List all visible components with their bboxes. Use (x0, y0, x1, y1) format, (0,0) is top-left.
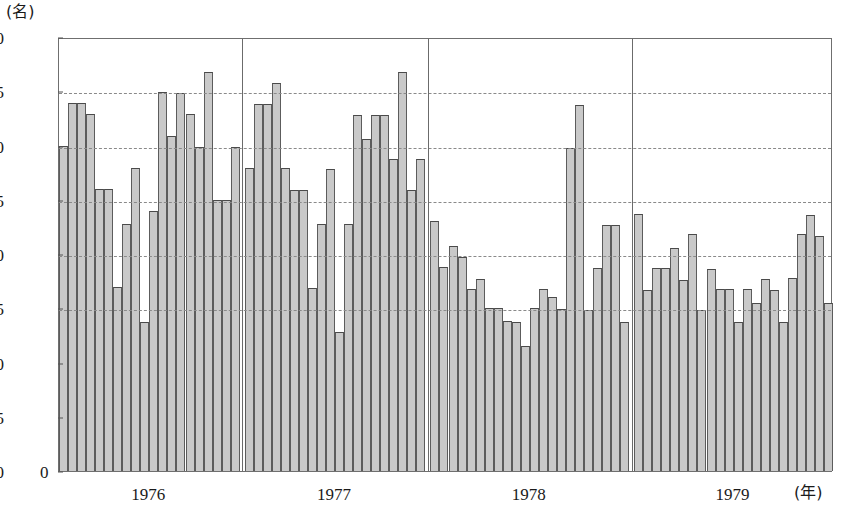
gridline (59, 202, 831, 203)
bar (725, 289, 734, 471)
bar (494, 308, 503, 471)
bar (824, 303, 833, 471)
bar (140, 322, 149, 471)
bar (272, 83, 281, 471)
bar (299, 190, 308, 471)
bar (593, 268, 602, 471)
group-divider (242, 39, 243, 471)
bar (670, 248, 679, 472)
y-tick-label: 20 (0, 247, 4, 264)
gridline (59, 93, 831, 94)
bar (530, 308, 539, 471)
bar (679, 280, 688, 471)
bar (308, 288, 317, 471)
bar (122, 224, 131, 471)
histogram-chart: (名) 0510152025303540 (年) 197619771978197… (0, 0, 844, 526)
bar (213, 200, 222, 471)
origin-label: 0 (40, 464, 49, 481)
bar (195, 147, 204, 471)
bar (548, 297, 557, 471)
bar (326, 169, 335, 471)
bar (131, 168, 140, 471)
bar (113, 287, 122, 471)
bar (430, 221, 439, 471)
bar (407, 190, 416, 471)
x-group-label-1978: 1978 (512, 486, 546, 504)
bar (485, 308, 494, 471)
bar (752, 303, 761, 471)
bar (716, 289, 725, 471)
bar (734, 322, 743, 471)
bar (697, 310, 706, 471)
y-tick-mark (58, 363, 63, 364)
y-tick-label: 40 (0, 30, 4, 47)
bar (371, 115, 380, 471)
bar (353, 115, 362, 471)
y-tick-mark (58, 472, 63, 473)
bar (503, 321, 512, 471)
bar (643, 290, 652, 471)
bar (815, 236, 824, 471)
bar (68, 103, 77, 471)
y-tick-mark (58, 309, 63, 310)
bar (290, 190, 299, 471)
bar (761, 279, 770, 471)
bar (104, 189, 113, 471)
bar (389, 159, 398, 471)
bar (344, 224, 353, 471)
bar (688, 234, 697, 471)
bar (620, 322, 629, 471)
bar (539, 289, 548, 471)
bar (439, 267, 448, 471)
y-tick-label: 10 (0, 355, 4, 372)
bar (806, 215, 815, 471)
bar (707, 269, 716, 471)
bar (204, 72, 213, 471)
y-tick-mark (58, 200, 63, 201)
bar (743, 289, 752, 471)
bar (557, 309, 566, 471)
bar (335, 332, 344, 471)
bar (611, 225, 620, 471)
y-tick-mark (58, 417, 63, 418)
y-tick-label: 30 (0, 138, 4, 155)
x-axis-unit-label: (年) (794, 484, 822, 502)
gridline (59, 310, 831, 311)
bar (186, 114, 195, 471)
bar (458, 257, 467, 471)
plot-area (58, 38, 832, 472)
gridline (59, 256, 831, 257)
bar (167, 136, 176, 471)
bar (158, 92, 167, 471)
y-tick-label: 5 (0, 409, 4, 426)
gridline (59, 148, 831, 149)
y-tick-mark (58, 146, 63, 147)
group-divider (428, 39, 429, 471)
group-divider (632, 39, 633, 471)
x-group-label-1976: 1976 (131, 486, 165, 504)
bar (602, 225, 611, 471)
y-tick-mark (58, 255, 63, 256)
bar (362, 139, 371, 471)
bar (449, 246, 458, 471)
bar (149, 211, 158, 471)
bars-layer (59, 39, 831, 471)
bar (661, 268, 670, 471)
bar (512, 322, 521, 471)
bar (634, 214, 643, 471)
x-group-label-1977: 1977 (317, 486, 351, 504)
y-tick-label: 15 (0, 301, 4, 318)
bar (380, 115, 389, 471)
bar (245, 168, 254, 471)
bar (416, 159, 425, 471)
bar (521, 346, 530, 471)
bar (584, 310, 593, 471)
bar (263, 104, 272, 471)
bar (281, 168, 290, 471)
bar (770, 290, 779, 471)
bar (95, 189, 104, 471)
y-tick-mark (58, 38, 63, 39)
bar (77, 103, 86, 471)
bar (797, 234, 806, 471)
bar (254, 104, 263, 471)
